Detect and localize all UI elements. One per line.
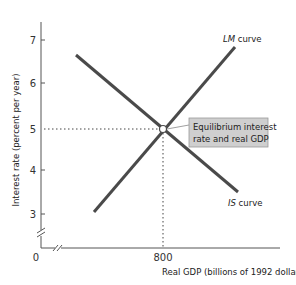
y-tick-label-6: 6 [30, 78, 36, 89]
is-curve-label-suffix: curve [236, 198, 263, 208]
origin-label: 0 [33, 252, 39, 263]
y-axis-title: Interest rate (percent per year) [11, 73, 21, 206]
equilibrium-point [160, 126, 167, 133]
y-tick-label-3: 3 [30, 209, 36, 220]
lm-curve-label-suffix: curve [235, 34, 262, 44]
x-tick-label-800: 800 [153, 252, 172, 263]
islm-chart: 7 6 5 4 3 0 800 Real GDP (billions of 19… [0, 0, 296, 285]
callout-leader-line [167, 125, 189, 129]
lm-curve-label-italic: LM [223, 34, 236, 44]
callout-line-1: Equilibrium interest [193, 122, 277, 132]
x-axis-title: Real GDP (billions of 1992 dollars) [162, 267, 296, 277]
y-tick-label-4: 4 [30, 165, 36, 176]
y-tick-label-5: 5 [30, 124, 36, 135]
lm-curve-label: LM curve [223, 34, 262, 44]
is-curve-label: IS curve [228, 198, 262, 208]
callout-line-2: rate and real GDP [193, 134, 269, 144]
y-tick-label-7: 7 [30, 35, 36, 46]
